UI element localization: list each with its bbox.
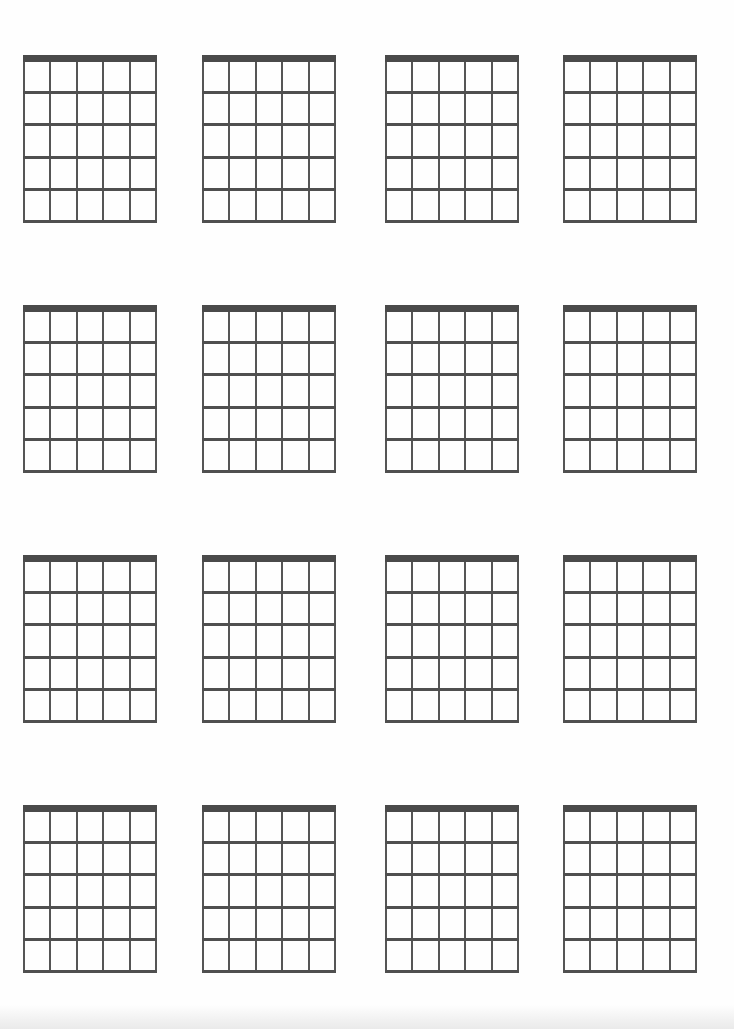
string-line xyxy=(491,305,493,473)
fret-line xyxy=(202,156,336,159)
fret-line xyxy=(385,470,519,473)
chord-diagram xyxy=(23,55,157,223)
string-line xyxy=(563,805,565,973)
string-line xyxy=(411,555,413,723)
fret-line xyxy=(563,373,697,376)
string-line xyxy=(155,55,157,223)
fret-line xyxy=(202,438,336,441)
string-line xyxy=(438,55,440,223)
string-line xyxy=(464,805,466,973)
fret-line xyxy=(385,656,519,659)
fret-line xyxy=(385,688,519,691)
fret-line xyxy=(23,123,157,126)
nut-bar xyxy=(202,55,336,62)
string-line xyxy=(669,805,671,973)
fret-line xyxy=(563,156,697,159)
nut-bar xyxy=(23,555,157,562)
fret-line xyxy=(23,656,157,659)
chord-diagram xyxy=(385,305,519,473)
string-line xyxy=(589,555,591,723)
fret-line xyxy=(563,220,697,223)
chord-diagram xyxy=(385,805,519,973)
string-line xyxy=(255,555,257,723)
chord-diagram xyxy=(563,55,697,223)
string-line xyxy=(695,805,697,973)
string-line xyxy=(642,555,644,723)
string-line xyxy=(385,805,387,973)
fret-line xyxy=(23,841,157,844)
string-line xyxy=(76,305,78,473)
string-line xyxy=(228,805,230,973)
fret-line xyxy=(202,841,336,844)
chord-diagram xyxy=(385,555,519,723)
string-line xyxy=(669,55,671,223)
fret-line xyxy=(563,623,697,626)
fret-line xyxy=(23,688,157,691)
string-line xyxy=(23,55,25,223)
string-line xyxy=(23,555,25,723)
string-line xyxy=(255,305,257,473)
string-line xyxy=(102,805,104,973)
fret-line xyxy=(563,123,697,126)
fret-line xyxy=(385,906,519,909)
string-line xyxy=(76,805,78,973)
string-line xyxy=(438,305,440,473)
string-line xyxy=(642,305,644,473)
string-line xyxy=(202,805,204,973)
string-line xyxy=(491,555,493,723)
fret-line xyxy=(23,591,157,594)
string-line xyxy=(102,555,104,723)
chord-diagram xyxy=(202,805,336,973)
fret-line xyxy=(23,720,157,723)
string-line xyxy=(308,805,310,973)
fret-line xyxy=(23,188,157,191)
string-line xyxy=(589,805,591,973)
string-line xyxy=(228,55,230,223)
fret-line xyxy=(202,591,336,594)
fret-line xyxy=(385,623,519,626)
fret-line xyxy=(202,656,336,659)
string-line xyxy=(438,555,440,723)
string-line xyxy=(589,55,591,223)
fret-line xyxy=(23,91,157,94)
fret-line xyxy=(563,470,697,473)
fret-line xyxy=(202,220,336,223)
chord-diagram xyxy=(563,805,697,973)
fret-line xyxy=(385,873,519,876)
string-line xyxy=(76,555,78,723)
fret-line xyxy=(385,156,519,159)
chord-diagram xyxy=(563,305,697,473)
string-line xyxy=(228,555,230,723)
nut-bar xyxy=(23,805,157,812)
chord-chart-page xyxy=(0,0,734,1029)
string-line xyxy=(616,805,618,973)
string-line xyxy=(102,305,104,473)
fret-line xyxy=(23,938,157,941)
string-line xyxy=(464,555,466,723)
fret-line xyxy=(563,591,697,594)
nut-bar xyxy=(563,305,697,312)
fret-line xyxy=(563,188,697,191)
string-line xyxy=(334,805,336,973)
nut-bar xyxy=(202,805,336,812)
string-line xyxy=(76,55,78,223)
fret-line xyxy=(202,938,336,941)
fret-line xyxy=(23,623,157,626)
chord-diagram xyxy=(202,55,336,223)
string-line xyxy=(589,305,591,473)
fret-line xyxy=(563,656,697,659)
string-line xyxy=(642,55,644,223)
fret-line xyxy=(23,373,157,376)
string-line xyxy=(281,805,283,973)
fret-line xyxy=(563,438,697,441)
string-line xyxy=(129,805,131,973)
string-line xyxy=(23,805,25,973)
string-line xyxy=(49,805,51,973)
string-line xyxy=(563,555,565,723)
fret-line xyxy=(385,720,519,723)
fret-line xyxy=(385,970,519,973)
fret-line xyxy=(385,841,519,844)
fret-line xyxy=(385,406,519,409)
fret-line xyxy=(202,188,336,191)
fret-line xyxy=(202,91,336,94)
